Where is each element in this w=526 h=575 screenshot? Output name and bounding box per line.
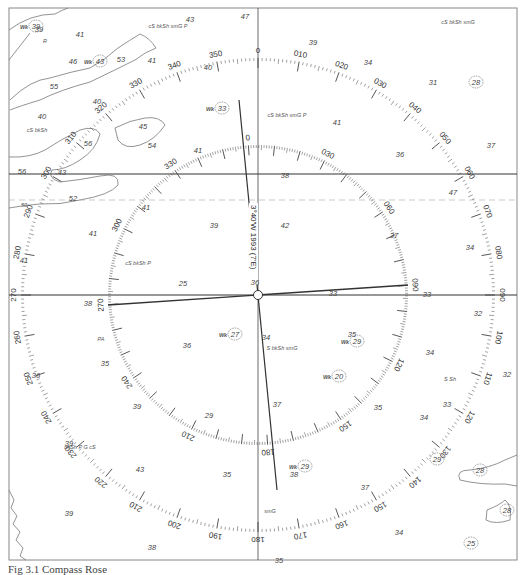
sounding: 33 [329,289,338,298]
sounding: 39 [210,221,219,230]
sounding: 43 [58,168,67,177]
sounding: 35 [275,556,284,565]
seabed-note: cS bkSh smG P [268,112,307,118]
contour-label: 50 [21,202,28,208]
wreck-label: Wk [84,59,93,65]
sounding: 53 [117,55,126,64]
sounding: 37 [487,141,496,150]
sounding: 47 [449,188,458,197]
wreck-depth: 29 [352,337,362,346]
sounding: 41 [148,56,156,65]
sounding: 45 [139,122,148,131]
sounding: 38 [148,543,157,552]
sounding: 41 [20,256,28,265]
circled-sounding: 25 [466,539,476,548]
sounding: 25 [178,279,188,288]
sounding: 37 [361,483,370,492]
wreck-label: Wk [289,464,298,470]
ring-label: 270 [9,288,18,302]
circled-sounding: 29 [432,455,442,464]
sounding: 36 [183,341,192,350]
sounding: 35 [101,359,110,368]
sounding: 42 [281,221,290,230]
sounding: 38 [84,299,93,308]
wreck-label: Wk [20,24,29,30]
wreck-label: Wk [219,332,228,338]
wreck-depth: 20 [334,372,344,381]
sounding: 33 [423,290,432,299]
wreck-label: Wk [341,339,350,345]
sounding: 32 [474,309,483,318]
seabed-note: cS bkSh smG P [149,23,188,29]
sounding: 41 [194,146,202,155]
sounding: 36 [32,371,41,380]
sounding: 34 [364,58,372,67]
seabed-note: cS bkSh [27,127,47,133]
sounding: 33 [443,400,452,409]
sounding: 39 [309,38,318,47]
seabed-note: PA [98,336,105,342]
wreck-label: Wk [323,374,332,380]
sounding: 37 [390,231,399,240]
sounding: 43 [136,465,145,474]
sounding: 34 [420,413,428,422]
ring-label: 090 [410,278,420,292]
chart-frame [9,8,517,560]
sounding: 38 [290,470,299,479]
sounding: 39 [65,509,74,518]
seabed-note: cS bkSh smG [441,19,475,25]
sounding: 55 [50,82,59,91]
sounding: 40 [38,112,47,121]
sounding: 36 [251,278,260,287]
sounding: 41 [333,118,341,127]
circled-sounding: 28 [502,506,512,515]
sounding: 40 [204,63,213,72]
ring-label: 0 [256,46,261,55]
ring-label: 270 [96,298,106,312]
sounding: 35 [374,403,383,412]
sounding: 34 [395,528,403,537]
sounding: 41 [76,30,84,39]
sounding: 31 [429,78,437,87]
sounding: 39 [133,402,142,411]
seabed-note: smG [264,508,276,514]
sounding: 34 [426,348,434,357]
wreck-depth: 29 [300,462,310,471]
sounding: 38 [281,171,290,180]
seabed-note: R [43,38,47,44]
sounding: 56 [84,139,93,148]
sounding: 40 [93,97,102,106]
variation-label: 3°40'W 1993 (7'E) [249,205,258,270]
circled-sounding: 28 [475,466,485,475]
sounding: 29 [204,411,214,420]
sounding: 56 [18,167,27,176]
figure-caption: Fig 3.1 Compass Rose [8,563,107,575]
sounding: 52 [69,194,78,203]
wreck-label: Wk [206,106,215,112]
circled-sounding: 28 [471,78,481,87]
sounding: 41 [89,229,97,238]
wreck-depth: 43 [96,57,105,66]
seabed-note: bkSh P G cS [64,444,96,450]
seabed-note: S bkSh smG [267,345,299,351]
wreck-depth: 39 [32,22,41,31]
wreck-depth: 33 [218,104,227,113]
sounding: 32 [503,370,512,379]
sounding: 37 [273,400,282,409]
sounding: 34 [262,333,270,342]
ring-label: 090 [498,288,507,302]
sounding: 41 [142,203,150,212]
seabed-note: cS bkSh P [125,260,151,266]
wreck-depth: 27 [230,330,240,339]
sounding: 35 [223,470,232,479]
sounding: 54 [148,141,156,150]
sounding: 36 [396,150,405,159]
seabed-note: S Sh [444,376,456,382]
sounding: 34 [466,243,474,252]
ring-label: 180 [251,535,265,544]
sounding: 46 [69,57,78,66]
sounding: 47 [241,12,250,21]
